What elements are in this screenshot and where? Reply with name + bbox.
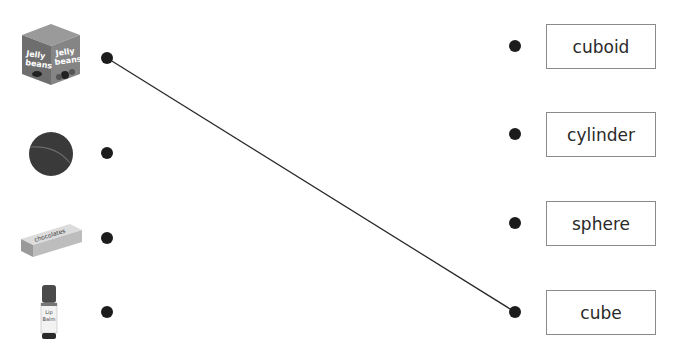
label-cube[interactable]: cube bbox=[546, 290, 656, 335]
label-dot-sphere[interactable] bbox=[509, 217, 521, 229]
object-dot-chocolate[interactable] bbox=[101, 232, 113, 244]
object-dot-jelly-beans[interactable] bbox=[101, 52, 113, 64]
label-dot-cuboid[interactable] bbox=[509, 40, 521, 52]
chocolate-box-icon: chocolates bbox=[18, 221, 84, 259]
label-text: cylinder bbox=[567, 125, 635, 145]
label-cuboid[interactable]: cuboid bbox=[546, 24, 656, 69]
label-dot-cylinder[interactable] bbox=[509, 128, 521, 140]
label-text: cube bbox=[580, 303, 621, 323]
object-dot-lip-balm[interactable] bbox=[101, 306, 113, 318]
lip-balm-icon: Lip Balm bbox=[40, 284, 58, 340]
jelly-beans-box-icon: Jelly beans Jelly beans bbox=[18, 22, 84, 88]
lip-balm-caption-2: Balm bbox=[43, 316, 56, 322]
lip-balm-caption-1: Lip bbox=[45, 309, 52, 316]
label-text: cuboid bbox=[573, 37, 630, 57]
object-dot-ball[interactable] bbox=[101, 147, 113, 159]
label-dot-cube[interactable] bbox=[509, 306, 521, 318]
label-text: sphere bbox=[572, 214, 630, 234]
ball-icon bbox=[28, 131, 74, 177]
label-sphere[interactable]: sphere bbox=[546, 201, 656, 246]
label-cylinder[interactable]: cylinder bbox=[546, 112, 656, 157]
connection-line[interactable] bbox=[107, 58, 515, 312]
